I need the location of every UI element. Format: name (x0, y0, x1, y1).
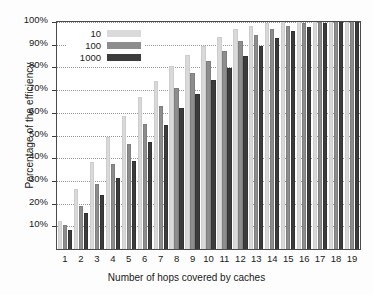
plot-area: 10 100 1000 (56, 21, 361, 250)
bar-1000-hop-11 (227, 68, 231, 249)
x-tick-label-8: 8 (174, 253, 179, 264)
bar-group-7 (153, 22, 168, 249)
bar-1000-hop-6 (148, 142, 152, 249)
bar-100-hop-6 (143, 124, 147, 249)
x-tick-label-15: 15 (283, 253, 294, 264)
chart-legend: 10 100 1000 (67, 26, 145, 67)
bar-group-10 (201, 22, 216, 249)
bar-10-hop-12 (233, 29, 237, 249)
bar-10-hop-3 (90, 162, 94, 249)
bar-10-hop-14 (265, 23, 269, 249)
bar-10-hop-7 (154, 81, 158, 249)
x-tick-label-6: 6 (142, 253, 147, 264)
legend-item-10: 10 (71, 28, 141, 39)
x-tick-label-1: 1 (62, 253, 67, 264)
bar-10-hop-13 (249, 26, 253, 249)
bar-100-hop-9 (190, 73, 194, 249)
x-tick-label-4: 4 (110, 253, 115, 264)
bar-100-hop-15 (286, 26, 290, 249)
legend-item-1000: 1000 (71, 52, 141, 63)
y-tick-label-40: 40% (18, 150, 48, 161)
bar-group-14 (265, 22, 280, 249)
y-tick-label-10: 10% (18, 218, 48, 229)
bar-group-18 (329, 22, 344, 249)
bar-100-hop-2 (79, 206, 83, 249)
bar-100-hop-10 (206, 61, 210, 249)
x-tick-label-9: 9 (190, 253, 195, 264)
legend-swatch-10 (107, 30, 141, 37)
bar-10-hop-5 (122, 116, 126, 249)
bar-1000-hop-16 (307, 27, 311, 249)
bar-10-hop-15 (281, 22, 285, 249)
bar-10-hop-16 (297, 21, 301, 249)
legend-label-1000: 1000 (71, 52, 101, 63)
bar-1000-hop-18 (339, 21, 343, 249)
bar-100-hop-19 (350, 21, 354, 249)
x-tick-label-12: 12 (235, 253, 246, 264)
bar-100-hop-17 (318, 22, 322, 249)
x-tick-label-2: 2 (78, 253, 83, 264)
y-tick-label-60: 60% (18, 104, 48, 115)
legend-swatch-1000 (107, 54, 141, 61)
bar-group-15 (281, 22, 296, 249)
bar-100-hop-1 (63, 225, 67, 249)
bar-10-hop-8 (169, 66, 173, 249)
x-tick-label-13: 13 (251, 253, 262, 264)
bar-10-hop-10 (201, 46, 205, 249)
bar-1000-hop-17 (323, 23, 327, 249)
bar-group-9 (185, 22, 200, 249)
bar-100-hop-13 (254, 35, 258, 249)
x-tick-label-18: 18 (331, 253, 342, 264)
bar-group-17 (313, 22, 328, 249)
x-tick-label-11: 11 (220, 253, 230, 264)
bar-group-11 (217, 22, 232, 249)
y-axis-tick-labels: 100%90%80%70%60%50%40%30%20%10% (18, 18, 48, 250)
bar-100-hop-8 (174, 88, 178, 249)
x-tick-label-3: 3 (94, 253, 99, 264)
bar-100-hop-16 (302, 23, 306, 249)
bar-1000-hop-15 (291, 31, 295, 249)
bar-10-hop-11 (217, 37, 221, 249)
bar-10-hop-18 (329, 21, 333, 249)
y-tick-label-20: 20% (18, 195, 48, 206)
x-tick-label-14: 14 (267, 253, 278, 264)
x-tick-label-16: 16 (299, 253, 310, 264)
y-tick-label-100: 100% (18, 14, 48, 25)
bar-1000-hop-9 (195, 94, 199, 249)
bar-100-hop-4 (111, 164, 115, 249)
y-tick-label-90: 90% (18, 36, 48, 47)
bar-10-hop-9 (185, 55, 189, 249)
x-tick-label-17: 17 (315, 253, 326, 264)
bar-10-hop-6 (138, 97, 142, 249)
y-tick-label-30: 30% (18, 172, 48, 183)
bar-10-hop-1 (58, 221, 62, 249)
chart-figure: Percentage of the efficiency 100%90%80%7… (0, 0, 373, 295)
bar-1000-hop-19 (355, 21, 359, 249)
bar-1000-hop-10 (211, 80, 215, 249)
bar-1000-hop-4 (116, 178, 120, 249)
legend-label-100: 100 (71, 40, 101, 51)
bar-1000-hop-3 (100, 195, 104, 249)
bar-group-19 (345, 22, 360, 249)
legend-swatch-100 (107, 42, 141, 49)
x-tick-label-19: 19 (347, 253, 358, 264)
bar-1000-hop-12 (243, 56, 247, 249)
bar-100-hop-5 (127, 144, 131, 249)
bar-1000-hop-8 (179, 108, 183, 249)
x-axis-title: Number of hops covered by caches (0, 272, 373, 283)
x-tick-label-10: 10 (203, 253, 214, 264)
y-tick-label-70: 70% (18, 82, 48, 93)
bar-1000-hop-2 (84, 213, 88, 249)
bar-group-12 (233, 22, 248, 249)
bar-1000-hop-5 (132, 161, 136, 249)
bar-1000-hop-13 (259, 46, 263, 249)
x-tick-label-5: 5 (126, 253, 131, 264)
bar-1000-hop-14 (275, 38, 279, 249)
bar-100-hop-7 (159, 106, 163, 249)
x-tick-label-7: 7 (158, 253, 163, 264)
bar-1000-hop-1 (68, 230, 72, 249)
legend-label-10: 10 (71, 28, 101, 39)
bar-group-13 (249, 22, 264, 249)
legend-item-100: 100 (71, 40, 141, 51)
bar-group-8 (169, 22, 184, 249)
